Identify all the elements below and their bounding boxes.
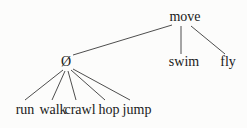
edge-null-crawl (68, 71, 76, 100)
edge-move-null (73, 25, 172, 55)
edge-null-run (25, 70, 63, 100)
edge-null-jump (73, 69, 130, 100)
node-null: Ø (61, 55, 71, 69)
node-fly: fly (220, 55, 236, 69)
node-run: run (16, 103, 35, 117)
node-swim: swim (169, 55, 199, 69)
node-walk: walk (39, 103, 66, 117)
node-move: move (169, 10, 200, 24)
edge-move-fly (191, 26, 225, 54)
edge-null-walk (52, 71, 65, 100)
edge-null-hop (71, 70, 105, 100)
node-crawl: crawl (64, 103, 95, 117)
node-jump: jump (123, 103, 152, 117)
tree-diagram: move Ø swim fly run walk crawl hop jump (0, 0, 247, 128)
node-hop: hop (99, 103, 120, 117)
